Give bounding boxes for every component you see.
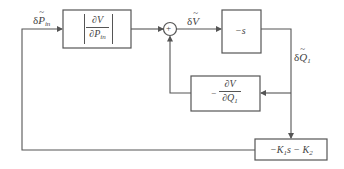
signal-label-sum-out: δV [187,16,199,27]
feedback-q-fraction: ∂V ∂Q1 [219,79,241,105]
wire-output [261,29,291,138]
integrator-label: −s [235,26,246,36]
signal-label-output: δQ1 [294,52,311,65]
controller-label: −K1s − K2 [270,145,313,157]
sum-plus-sign: + [166,24,171,33]
wire-feedback-to-sum [170,37,191,94]
feedback-sign: − [211,89,216,98]
gain-pin-fraction: ∂V ∂Pin [86,15,109,41]
signal-label-input: δPin [33,15,50,28]
